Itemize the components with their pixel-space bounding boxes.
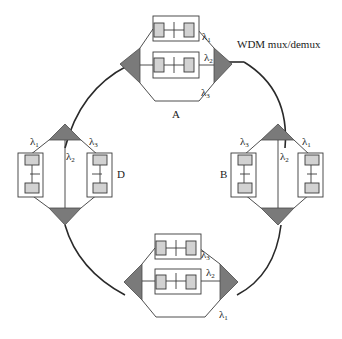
- a-lambda1-label: λ1: [202, 30, 211, 44]
- mux-a-left-icon: [120, 48, 140, 83]
- wdm-ring-diagram: λ1 λ2 λ3 A WDM mux/demux λ1 λ2 λ3 D: [0, 0, 342, 339]
- b-lambda2-label: λ2: [280, 150, 289, 164]
- a-lambda3-label: λ3: [201, 86, 210, 100]
- mux-c-right-icon: [220, 264, 238, 300]
- mux-d-bottom-icon: [49, 208, 81, 225]
- c-lambda3-label: λ3: [201, 248, 210, 262]
- node-a-label: A: [172, 108, 180, 120]
- mux-d-top-icon: [49, 124, 81, 140]
- c-lambda2-label: λ2: [206, 266, 215, 280]
- mux-a-right-icon: [214, 48, 232, 83]
- node-c: C λ3 λ2 λ1: [124, 234, 238, 322]
- node-a: λ1 λ2 λ3 A: [120, 16, 232, 120]
- c-trx3-pad-right: [186, 241, 196, 255]
- c-trx3-pad-left: [156, 241, 166, 255]
- node-d: λ1 λ2 λ3 D: [18, 124, 125, 225]
- d-lambda3-label: λ3: [89, 135, 98, 149]
- node-b-label: B: [220, 168, 227, 180]
- c-lambda1-label: λ1: [219, 308, 228, 322]
- mux-b-top-icon: [261, 124, 294, 140]
- b-lambda1-label: λ1: [302, 135, 311, 149]
- a-trx2-pad-right: [184, 58, 194, 72]
- d-lambda1-label: λ1: [30, 135, 39, 149]
- mux-b-bottom-icon: [261, 208, 294, 225]
- d-lambda2-label: λ2: [66, 150, 75, 164]
- a-lambda2-label: λ2: [204, 51, 213, 65]
- node-d-label: D: [117, 168, 125, 180]
- wdm-mux-demux-label: WDM mux/demux: [237, 38, 321, 50]
- a-trx1-pad-right: [184, 23, 194, 37]
- c-lambda1-bypass: [142, 300, 220, 317]
- ring-fiber-b-c: [237, 225, 281, 295]
- mux-c-left-icon: [124, 264, 142, 300]
- node-b: λ3 λ2 λ1 B: [220, 124, 323, 225]
- c-trx2-pad-right: [186, 275, 196, 289]
- ring-fiber-d-c: [65, 225, 125, 295]
- a-trx1-pad-left: [154, 23, 164, 37]
- b-lambda3-label: λ3: [240, 135, 249, 149]
- c-trx2-pad-left: [156, 275, 166, 289]
- a-trx2-pad-left: [154, 58, 164, 72]
